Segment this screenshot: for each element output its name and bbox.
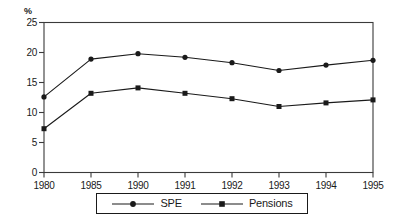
legend-label-pensions: Pensions [249,198,293,209]
data-series-group [41,51,375,131]
line-chart: % 0510152025 198019851990199119921993199… [0,0,394,224]
plot-frame [44,23,373,173]
square-marker-icon [200,198,244,210]
plot-area [0,0,394,224]
legend-item-pensions: Pensions [200,198,293,210]
circle-marker-icon [111,198,155,210]
legend-item-spe: SPE [111,198,181,210]
chart-legend: SPE Pensions [96,193,308,214]
legend-label-spe: SPE [160,198,181,209]
x-axis-ticks [44,173,373,178]
